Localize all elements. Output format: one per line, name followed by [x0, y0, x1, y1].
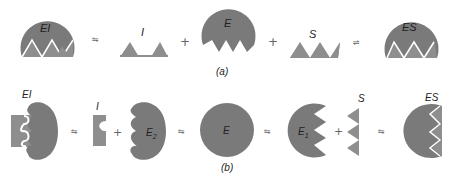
enzyme-e2: E2	[130, 102, 166, 160]
label-s-b: S	[358, 93, 365, 104]
equilibrium-arrow-1-a: ⇋	[92, 35, 99, 44]
es-complex-a: ES	[385, 21, 439, 58]
label-es-b: ES	[425, 92, 439, 103]
plus-2-b: +	[334, 125, 343, 138]
label-ei-a: EI	[40, 22, 50, 34]
panel-b: EI ⇋ I + E2 ⇋ E ⇋ E1 + S ⇋	[11, 89, 442, 173]
enzyme-e1: E1	[288, 104, 326, 158]
label-i-b: I	[96, 101, 99, 112]
equilibrium-arrow-4-b: ⇋	[378, 127, 385, 136]
equilibrium-arrow-1-b: ⇋	[71, 127, 78, 136]
panel-a: EI ⇋ I + E + S ⇌ ES	[20, 9, 438, 77]
equilibrium-arrow-2-a: ⇌	[353, 38, 360, 47]
substrate-b: S	[347, 93, 365, 156]
ei-complex-a: EI	[20, 21, 74, 57]
substrate-a: S	[290, 28, 340, 58]
label-e-a: E	[224, 17, 232, 29]
plus-2-a: +	[268, 35, 278, 49]
enzyme-inhibition-diagram: EI ⇋ I + E + S ⇌ ES	[0, 0, 454, 184]
equilibrium-arrow-3-b: ⇋	[264, 127, 271, 136]
plus-1-b: +	[113, 126, 122, 139]
plus-1-a: +	[180, 35, 190, 49]
inhibitor-a: I	[120, 26, 168, 57]
inhibitor-b: I	[93, 101, 106, 146]
equilibrium-arrow-2-b: ⇋	[178, 127, 185, 136]
label-i-a: I	[141, 26, 144, 38]
label-s-a: S	[309, 28, 317, 40]
label-e-b: E	[223, 125, 230, 136]
label-ei-b: EI	[22, 89, 32, 100]
enzyme-e-b: E	[200, 103, 254, 157]
es-complex-b: ES	[403, 92, 442, 158]
caption-b: (b)	[221, 162, 233, 173]
ei-complex-b: EI	[11, 89, 58, 160]
enzyme-a: E	[202, 9, 256, 52]
label-es-a: ES	[402, 21, 417, 33]
caption-a: (a)	[216, 66, 228, 77]
